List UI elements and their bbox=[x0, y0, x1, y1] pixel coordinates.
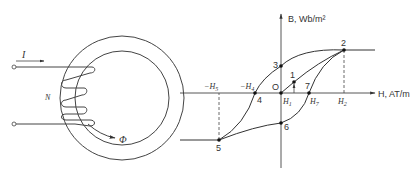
label-4: 4 bbox=[257, 95, 262, 105]
point-5 bbox=[217, 138, 221, 142]
toroid-inner-ring bbox=[75, 51, 169, 145]
tick-h7: H7 bbox=[309, 97, 320, 107]
label-o: O bbox=[272, 82, 279, 92]
label-1: 1 bbox=[290, 70, 295, 80]
terminal-top bbox=[12, 65, 16, 69]
point-6 bbox=[279, 121, 283, 125]
tick-neg-h5: −H5 bbox=[204, 82, 218, 92]
h-axis-label: H, AT/m bbox=[378, 89, 410, 99]
point-o bbox=[279, 91, 283, 95]
tick-neg-h4: −H4 bbox=[240, 82, 254, 92]
label-7: 7 bbox=[305, 81, 310, 91]
label-2: 2 bbox=[341, 38, 346, 48]
lower-branch bbox=[219, 50, 344, 140]
point-1 bbox=[292, 80, 296, 84]
upper-branch bbox=[219, 50, 344, 140]
label-6: 6 bbox=[284, 122, 289, 132]
point-3 bbox=[279, 64, 283, 68]
projections bbox=[219, 50, 344, 140]
flux-label: Φ bbox=[119, 134, 127, 145]
point-7 bbox=[307, 91, 311, 95]
tick-h1: H1 bbox=[282, 97, 292, 107]
terminal-bottom bbox=[12, 122, 16, 126]
label-5: 5 bbox=[216, 143, 221, 153]
label-3: 3 bbox=[273, 60, 278, 70]
winding-coils bbox=[62, 67, 95, 126]
b-axis-label: B, Wb/m² bbox=[288, 14, 326, 24]
loop-points bbox=[217, 48, 346, 142]
figure-canvas: I N Φ B, Wb/m² H, AT/m bbox=[0, 0, 419, 176]
current-label: I bbox=[21, 49, 26, 60]
tick-h2: H2 bbox=[337, 97, 347, 107]
point-2 bbox=[342, 48, 346, 52]
toroid-diagram: I N Φ bbox=[12, 36, 184, 160]
turns-label: N bbox=[44, 93, 51, 102]
bh-loop-chart: B, Wb/m² H, AT/m bbox=[180, 14, 410, 168]
